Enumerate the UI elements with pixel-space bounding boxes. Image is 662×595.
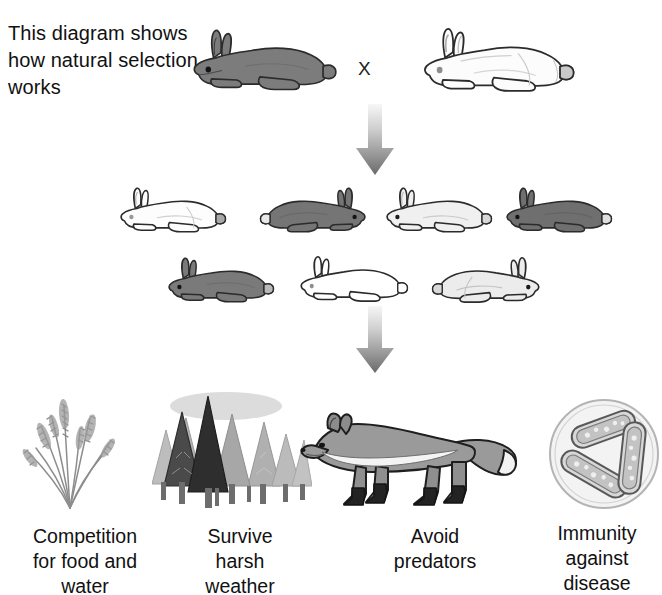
offspring-rabbit-dark-3 bbox=[160, 252, 278, 312]
label-weather: Survive harsh weather bbox=[160, 524, 320, 595]
offspring-rabbit-white bbox=[112, 182, 230, 242]
down-arrow-icon-1 bbox=[353, 104, 397, 176]
rabbit-eye bbox=[437, 67, 443, 73]
pine-forest-icon bbox=[152, 382, 312, 510]
fox-icon bbox=[300, 404, 522, 508]
label-immunity: Immunity against disease bbox=[532, 521, 662, 595]
grass-plant-icon bbox=[6, 384, 136, 509]
label-weather-line-2: harsh bbox=[160, 549, 320, 574]
offspring-rabbit-light bbox=[378, 182, 496, 242]
label-predators-line-1: Avoid bbox=[355, 524, 515, 549]
label-immunity-line-1: Immunity bbox=[532, 521, 662, 546]
offspring-rabbit-dark-2 bbox=[498, 182, 616, 242]
fox-nose bbox=[300, 448, 305, 452]
parent-rabbit-dark bbox=[182, 24, 342, 96]
label-competition-line-2: for food and bbox=[0, 549, 170, 574]
natural-selection-diagram: This diagram shows how natural selection… bbox=[0, 0, 662, 595]
label-weather-line-1: Survive bbox=[160, 524, 320, 549]
label-immunity-line-3: disease bbox=[532, 571, 662, 595]
offspring-rabbit-pale bbox=[428, 252, 548, 312]
offspring-rabbit-spotted bbox=[292, 250, 412, 312]
label-predators: Avoid predators bbox=[355, 524, 515, 574]
trunks bbox=[161, 482, 305, 508]
caption-line-1: This diagram shows bbox=[8, 22, 188, 44]
offspring-rabbit-dark bbox=[256, 182, 374, 242]
label-immunity-line-2: against bbox=[532, 546, 662, 571]
caption-line-2: how natural bbox=[8, 49, 113, 71]
down-arrow-icon-2 bbox=[353, 306, 397, 374]
label-predators-line-2: predators bbox=[355, 549, 515, 574]
label-competition-line-3: water bbox=[0, 574, 170, 595]
label-weather-line-3: weather bbox=[160, 574, 320, 595]
label-competition-line-1: Competition bbox=[0, 524, 170, 549]
haze bbox=[170, 392, 282, 420]
parent-generation-row bbox=[182, 24, 342, 100]
rabbit-eye bbox=[206, 66, 211, 72]
fox-eye bbox=[319, 443, 325, 448]
label-competition: Competition for food and water bbox=[0, 524, 170, 595]
bacteria-icon bbox=[548, 396, 660, 512]
parent-rabbit-white bbox=[412, 22, 580, 98]
cross-symbol: X bbox=[358, 58, 371, 80]
parent-rabbit-white-wrap bbox=[412, 22, 580, 102]
page-title: This diagram shows how natural selection… bbox=[8, 20, 198, 101]
